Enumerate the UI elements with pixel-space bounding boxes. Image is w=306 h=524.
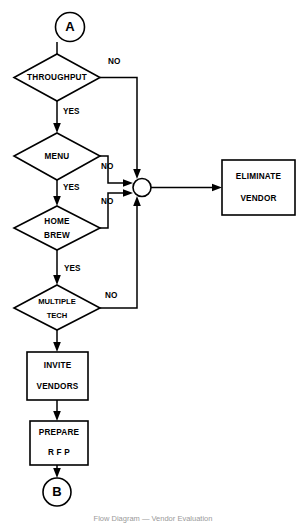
edge-label-menu-yes: YES [63,183,80,192]
entry-connector-label: A [65,19,75,34]
eliminate-vendor-label-line1: ELIMINATE [236,172,282,181]
exit-connector-label: B [52,484,62,499]
prepare-rfp-label-line1: PREPARE [39,428,80,437]
decision-home-brew-label-line2: BREW [44,231,70,240]
node-entry-connector-a[interactable]: A [56,13,85,42]
edge-invite-to-prepare [53,400,61,421]
prepare-rfp-label-line2: R F P [48,448,70,457]
edge-menu-yes-to-homebrew [53,180,61,206]
invite-vendors-label-line1: INVITE [44,361,72,370]
flowchart-canvas: A THROUGHPUT MENU HOME BREW MULTIPLE TEC… [0,0,306,524]
decision-multiple-tech-label-line1: MULTIPLE [38,297,75,306]
edge-label-multiple-tech-no: NO [105,291,118,300]
node-process-invite-vendors[interactable]: INVITE VENDORS [27,352,88,400]
edge-label-throughput-yes: YES [63,107,80,116]
figure-caption: Flow Diagram — Vendor Evaluation [94,514,213,523]
edge-throughput-yes-to-menu [53,101,61,133]
edge-homebrew-no-to-junction [100,189,133,228]
node-process-eliminate-vendor[interactable]: ELIMINATE VENDOR [222,160,295,215]
edge-label-home-brew-no: NO [101,197,114,206]
edge-prepare-to-exit [53,465,61,478]
edge-label-home-brew-yes: YES [64,264,81,273]
edge-junction-to-eliminate [151,184,222,192]
node-decision-home-brew[interactable]: HOME BREW [14,206,100,250]
edge-menu-no-to-junction [100,156,133,187]
edge-homebrew-yes-to-multipletech [53,250,61,285]
eliminate-vendor-label-line2: VENDOR [240,194,276,203]
decision-menu-label: MENU [45,152,70,161]
decision-multiple-tech-label-line2: TECH [47,311,68,320]
node-junction-connector[interactable] [133,179,151,197]
edge-label-menu-no: NO [101,162,114,171]
node-exit-connector-b[interactable]: B [43,478,71,506]
node-decision-multiple-tech[interactable]: MULTIPLE TECH [14,285,100,330]
decision-home-brew-label-line1: HOME [44,217,70,226]
node-process-prepare-rfp[interactable]: PREPARE R F P [30,421,88,465]
invite-vendors-label-line2: VENDORS [37,382,79,391]
decision-throughput-label: THROUGHPUT [27,73,87,82]
edge-multipletech-to-invite [53,330,61,352]
edge-label-throughput-no: NO [108,57,121,66]
node-decision-menu[interactable]: MENU [14,133,100,180]
flowchart-svg: A THROUGHPUT MENU HOME BREW MULTIPLE TEC… [0,0,306,524]
node-decision-throughput[interactable]: THROUGHPUT [14,54,100,101]
